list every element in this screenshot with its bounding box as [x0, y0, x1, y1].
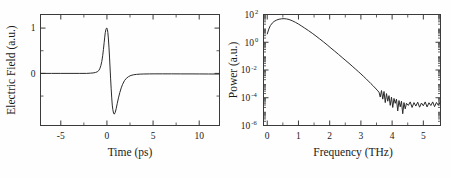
- power-spectrum-x-axis-title: Frequency (THz): [313, 146, 393, 159]
- time-domain-y-axis-title: Electric Field (a.u.): [5, 25, 18, 115]
- x-tick-label: 10: [194, 131, 204, 141]
- y-tick-label: 1: [31, 23, 36, 33]
- x-tick-label: 5: [151, 131, 156, 141]
- time-domain-y-tick-labels: 10: [31, 23, 36, 78]
- power-spectrum-plot-svg: 012345 10210010-210-410-6 Frequency (THz…: [225, 0, 451, 178]
- chart-panel-power-spectrum: 012345 10210010-210-410-6 Frequency (THz…: [225, 0, 451, 178]
- time-domain-plot-svg: -50510 10 Time (ps) Electric Field (a.u.…: [0, 0, 226, 178]
- power-spectrum-y-tick-labels: 10210010-210-410-6: [241, 8, 258, 131]
- y-tick-exponent: -4: [251, 91, 257, 98]
- time-domain-curve: [41, 28, 220, 114]
- power-spectrum-x-tick-labels: 012345: [265, 131, 426, 141]
- power-spectrum-curve: [267, 19, 440, 114]
- y-tick-label: 10: [241, 93, 251, 103]
- figure-container: -50510 10 Time (ps) Electric Field (a.u.…: [0, 0, 451, 178]
- x-tick-label: 3: [359, 131, 364, 141]
- time-domain-frame: [41, 15, 220, 126]
- y-tick-label: 10: [241, 121, 251, 131]
- x-tick-label: 1: [296, 131, 301, 141]
- y-tick-label: 10: [241, 65, 251, 75]
- y-tick-exponent: 0: [255, 36, 258, 43]
- x-tick-label: 5: [421, 131, 426, 141]
- y-tick-label: 10: [244, 10, 254, 20]
- power-spectrum-y-axis-title: Power (a.u.): [227, 42, 240, 99]
- x-tick-label: 2: [327, 131, 332, 141]
- x-tick-label: -5: [57, 131, 65, 141]
- time-domain-x-tick-labels: -50510: [57, 131, 204, 141]
- chart-panel-time-domain: -50510 10 Time (ps) Electric Field (a.u.…: [0, 0, 226, 178]
- power-spectrum-frame: [264, 15, 441, 126]
- y-tick-label: 10: [244, 38, 254, 48]
- x-tick-label: 0: [105, 131, 110, 141]
- y-tick-exponent: -6: [251, 119, 257, 126]
- y-tick-exponent: 2: [255, 8, 258, 15]
- x-tick-label: 4: [390, 131, 395, 141]
- time-domain-x-axis-title: Time (ps): [108, 146, 153, 159]
- power-spectrum-axes: [264, 15, 441, 126]
- x-tick-label: 0: [265, 131, 270, 141]
- y-tick-exponent: -2: [251, 64, 256, 71]
- y-tick-label: 0: [31, 69, 36, 79]
- time-domain-axes: [41, 15, 220, 126]
